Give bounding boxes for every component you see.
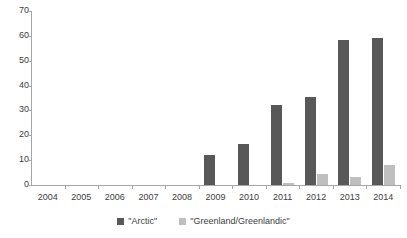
legend-label: "Greenland/Greenlandic" [190, 216, 289, 226]
y-axis-tick-mark [27, 36, 31, 37]
x-axis-tick-label: 2013 [333, 192, 367, 203]
y-axis-line [31, 11, 32, 185]
y-axis-tick-label: 50 [19, 55, 29, 65]
bar-greenland-2011 [283, 183, 294, 185]
x-axis-tick-label: 2012 [299, 192, 333, 203]
bar-arctic-2012 [305, 97, 316, 185]
bar-chart: 010203040506070 200420052006200720082009… [0, 0, 407, 238]
bar-arctic-2011 [271, 105, 282, 185]
y-axis-tick-label: 30 [19, 104, 29, 114]
legend-item[interactable]: "Greenland/Greenlandic" [179, 216, 289, 226]
chart-legend: "Arctic""Greenland/Greenlandic" [0, 216, 407, 226]
x-axis-tick-label: 2006 [98, 192, 132, 203]
y-axis-tick-label: 20 [19, 129, 29, 139]
x-axis-tick-label: 2008 [165, 192, 199, 203]
x-axis-tick-mark [199, 185, 200, 189]
y-axis-tick-mark [27, 86, 31, 87]
x-axis-tick-mark [299, 185, 300, 189]
legend-swatch-icon [117, 218, 124, 225]
bar-arctic-2010 [238, 144, 249, 185]
x-axis-tick-label: 2009 [199, 192, 233, 203]
y-axis-tick-label: 40 [19, 80, 29, 90]
y-axis-tick-mark [27, 160, 31, 161]
x-axis-tick-mark [65, 185, 66, 189]
bar-greenland-2013 [350, 177, 361, 185]
x-axis-tick-mark [232, 185, 233, 189]
x-axis-tick-mark [266, 185, 267, 189]
x-axis-tick-mark [366, 185, 367, 189]
x-axis-tick-mark [132, 185, 133, 189]
y-axis-tick-mark [27, 61, 31, 62]
bar-arctic-2013 [338, 40, 349, 185]
x-axis-tick-mark [333, 185, 334, 189]
x-axis-tick-mark [400, 185, 401, 189]
x-axis-tick-label: 2005 [65, 192, 99, 203]
bar-greenland-2014 [384, 165, 395, 185]
bar-greenland-2012 [317, 174, 328, 185]
y-axis-tick-mark [27, 185, 31, 186]
x-axis-tick-mark [98, 185, 99, 189]
y-axis-tick-label: 0 [24, 179, 29, 189]
x-axis-tick-mark [165, 185, 166, 189]
legend-label: "Arctic" [128, 216, 157, 226]
x-axis-tick-label: 2010 [232, 192, 266, 203]
y-axis-tick-mark [27, 135, 31, 136]
y-axis-tick-mark [27, 110, 31, 111]
y-axis-tick-label: 60 [19, 30, 29, 40]
y-axis-tick-label: 70 [19, 5, 29, 15]
x-axis-line [31, 185, 400, 186]
x-axis-tick-label: 2007 [132, 192, 166, 203]
bar-arctic-2009 [204, 155, 215, 185]
y-axis-tick-label: 10 [19, 154, 29, 164]
y-axis-tick-mark [27, 11, 31, 12]
x-axis-tick-label: 2014 [366, 192, 400, 203]
legend-swatch-icon [179, 218, 186, 225]
x-axis-tick-label: 2004 [31, 192, 65, 203]
legend-item[interactable]: "Arctic" [117, 216, 157, 226]
bar-arctic-2014 [372, 38, 383, 185]
x-axis-tick-label: 2011 [266, 192, 300, 203]
